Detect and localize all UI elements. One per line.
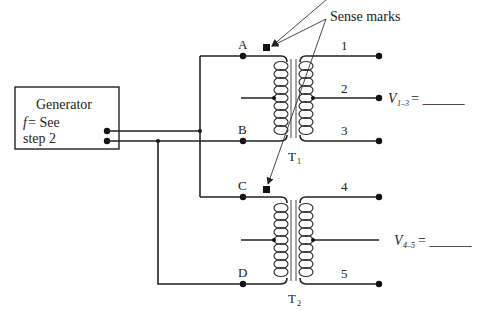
primary-coil-t1 <box>274 62 288 135</box>
terminal-5 <box>376 281 382 287</box>
label-3: 3 <box>341 123 348 138</box>
label-5: 5 <box>341 266 348 281</box>
label-1: 1 <box>341 38 348 53</box>
terminal-2 <box>376 95 382 101</box>
svg-text:= ______: = ______ <box>418 233 472 248</box>
transformer-t1: A B 1 2 <box>238 37 465 166</box>
sense-marks-label: Sense marks <box>330 9 400 24</box>
sense-mark-t2 <box>263 186 270 193</box>
label-2: 2 <box>341 81 348 96</box>
terminal-3 <box>376 138 382 144</box>
label-c: C <box>238 178 247 193</box>
transformer-t2: C D 4 5 T 2 V <box>238 178 472 308</box>
generator-box: Generator f = See step 2 <box>15 87 119 149</box>
svg-text:= ______: = ______ <box>411 91 465 106</box>
primary-coil-t2 <box>274 204 288 277</box>
svg-text:4–5: 4–5 <box>403 241 415 250</box>
generator-freq-text: = See <box>28 115 60 130</box>
label-t1: T <box>288 149 296 164</box>
label-t2-sub: 2 <box>297 299 301 308</box>
generator-freq-text2: step 2 <box>23 131 56 146</box>
measurement-v13: V 1–3 = ______ <box>388 91 465 108</box>
primary-wiring <box>107 56 243 284</box>
label-a: A <box>238 37 248 52</box>
label-4: 4 <box>341 179 348 194</box>
label-b: B <box>238 122 247 137</box>
secondary-coil-t1 <box>299 62 313 135</box>
circuit-diagram: Generator f = See step 2 A B <box>0 0 477 316</box>
label-d: D <box>238 265 247 280</box>
measurement-v45: V 4–5 = ______ <box>394 233 472 250</box>
label-t1-sub: 1 <box>297 157 301 166</box>
terminal-1 <box>376 53 382 59</box>
generator-title: Generator <box>36 97 92 112</box>
label-t2: T <box>288 291 296 306</box>
secondary-coil-t2 <box>299 204 313 277</box>
svg-text:1–3: 1–3 <box>397 99 409 108</box>
terminal-4 <box>376 194 382 200</box>
sense-mark-t1 <box>263 44 270 51</box>
